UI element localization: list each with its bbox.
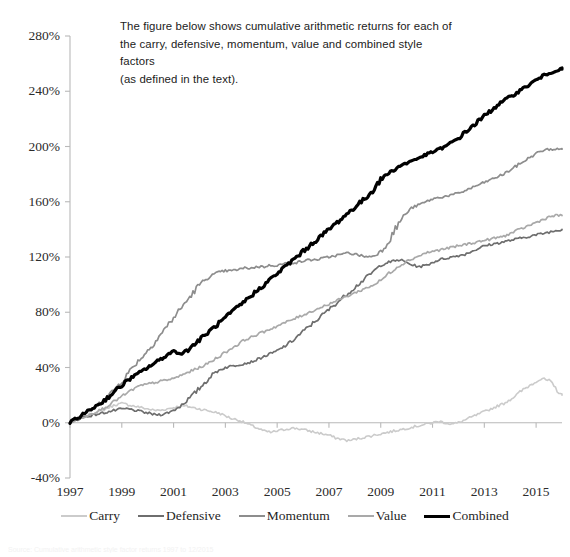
x-axis-tick-label: 1999 (98, 484, 146, 500)
x-axis-tick-label: 2009 (357, 484, 405, 500)
x-axis-tick-label: 1997 (46, 484, 94, 500)
x-axis-tick-label: 2007 (305, 484, 353, 500)
legend-label: Combined (452, 508, 508, 524)
y-axis-tick-label: 120% (4, 249, 60, 265)
x-axis-tick-label: 2015 (512, 484, 560, 500)
legend-label: Value (376, 508, 407, 524)
series-line-defensive (70, 229, 562, 422)
series-line-momentum (70, 148, 562, 424)
x-axis-tick-label: 2003 (201, 484, 249, 500)
legend-label: Momentum (267, 508, 330, 524)
figure-footnote: Source: Cumulative arithmetic style fact… (8, 546, 438, 553)
y-axis-tick-label: 280% (4, 28, 60, 44)
y-axis-tick-label: 80% (4, 304, 60, 320)
figure-caption: The figure below shows cumulative arithm… (120, 18, 460, 88)
legend-swatch-value (348, 515, 374, 517)
x-axis-tick-label: 2013 (460, 484, 508, 500)
legend-label: Defensive (166, 508, 221, 524)
x-axis-tick-label: 2011 (409, 484, 457, 500)
legend-swatch-defensive (138, 515, 164, 517)
legend-item-value[interactable]: Value (348, 508, 407, 524)
legend-item-combined[interactable]: Combined (424, 508, 508, 524)
y-axis-tick-label: 0% (4, 415, 60, 431)
x-axis-tick-label: 2001 (150, 484, 198, 500)
legend-item-carry[interactable]: Carry (61, 508, 120, 524)
legend-item-momentum[interactable]: Momentum (239, 508, 330, 524)
legend-swatch-combined (424, 515, 450, 518)
legend-item-defensive[interactable]: Defensive (138, 508, 221, 524)
y-axis-tick-label: 200% (4, 139, 60, 155)
y-axis-tick-label: 40% (4, 360, 60, 376)
chart-legend: CarryDefensiveMomentumValueCombined (0, 508, 570, 524)
y-axis-tick-label: 240% (4, 83, 60, 99)
legend-swatch-carry (61, 515, 87, 517)
y-axis-tick-label: 160% (4, 194, 60, 210)
series-line-carry (70, 378, 562, 441)
figure-container: The figure below shows cumulative arithm… (0, 0, 570, 557)
x-axis-tick-label: 2005 (253, 484, 301, 500)
legend-label: Carry (89, 508, 120, 524)
legend-swatch-momentum (239, 515, 265, 517)
